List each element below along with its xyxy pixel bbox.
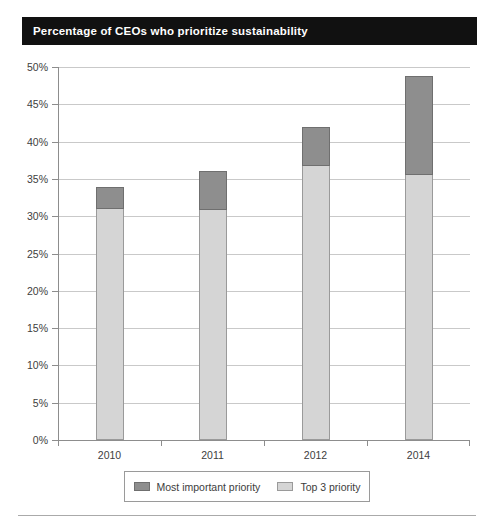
footer-divider bbox=[18, 515, 476, 516]
y-axis-tick-label: 50% bbox=[2, 62, 48, 72]
x-axis-tick-mark bbox=[58, 440, 59, 446]
y-axis-tick-mark bbox=[52, 254, 58, 255]
legend-label: Most important priority bbox=[157, 481, 261, 493]
bar-segment-top3-2012 bbox=[302, 166, 330, 440]
y-axis-tick-label: 45% bbox=[2, 99, 48, 109]
y-axis-tick-label: 0% bbox=[2, 435, 48, 445]
y-axis-line bbox=[58, 67, 59, 441]
gridline bbox=[58, 67, 470, 68]
bar-2011 bbox=[199, 171, 227, 440]
legend-item[interactable]: Top 3 priority bbox=[277, 481, 360, 493]
y-axis-tick-label: 10% bbox=[2, 360, 48, 370]
x-axis-tick-mark bbox=[161, 440, 162, 446]
y-axis-tick-label: 20% bbox=[2, 286, 48, 296]
bar-segment-top3-2010 bbox=[96, 209, 124, 440]
y-axis-tick-mark bbox=[52, 67, 58, 68]
y-axis-tick-label: 40% bbox=[2, 137, 48, 147]
bar-segment-most-important-2011 bbox=[199, 171, 227, 210]
x-axis-tick-mark bbox=[469, 440, 470, 446]
bar-2012 bbox=[302, 127, 330, 440]
x-axis-tick-mark bbox=[264, 440, 265, 446]
legend-swatch-light bbox=[277, 482, 293, 491]
y-axis-tick-mark bbox=[52, 365, 58, 366]
y-axis-labels: 0%5%10%15%20%25%30%35%40%45%50% bbox=[0, 0, 48, 470]
y-axis-tick-mark bbox=[52, 440, 58, 441]
bar-segment-top3-2011 bbox=[199, 210, 227, 440]
chart-legend: Most important priorityTop 3 priority bbox=[124, 471, 370, 502]
y-axis-tick-label: 30% bbox=[2, 211, 48, 221]
bar-2010 bbox=[96, 187, 124, 440]
bar-segment-most-important-2012 bbox=[302, 127, 330, 166]
bar-segment-most-important-2014 bbox=[405, 76, 433, 175]
chart-canvas: 0%5%10%15%20%25%30%35%40%45%50% 20102011… bbox=[0, 0, 492, 470]
x-axis-tick-label: 2010 bbox=[70, 449, 150, 461]
y-axis-tick-mark bbox=[52, 328, 58, 329]
y-axis-tick-label: 35% bbox=[2, 174, 48, 184]
y-axis-tick-label: 5% bbox=[2, 398, 48, 408]
y-axis-tick-mark bbox=[52, 142, 58, 143]
y-axis-tick-label: 15% bbox=[2, 323, 48, 333]
x-axis-tick-mark bbox=[367, 440, 368, 446]
y-axis-tick-label: 25% bbox=[2, 249, 48, 259]
legend-label: Top 3 priority bbox=[300, 481, 360, 493]
plot-area bbox=[58, 67, 470, 440]
bar-2014 bbox=[405, 76, 433, 440]
y-axis-tick-mark bbox=[52, 179, 58, 180]
x-axis-tick-label: 2012 bbox=[276, 449, 356, 461]
x-axis-tick-label: 2011 bbox=[173, 449, 253, 461]
y-axis-tick-mark bbox=[52, 104, 58, 105]
legend-swatch-dark bbox=[134, 482, 150, 491]
y-axis-tick-mark bbox=[52, 216, 58, 217]
bar-segment-most-important-2010 bbox=[96, 187, 124, 209]
y-axis-tick-mark bbox=[52, 403, 58, 404]
x-axis-tick-label: 2014 bbox=[379, 449, 459, 461]
bar-segment-top3-2014 bbox=[405, 175, 433, 440]
legend-item[interactable]: Most important priority bbox=[134, 481, 261, 493]
y-axis-tick-mark bbox=[52, 291, 58, 292]
